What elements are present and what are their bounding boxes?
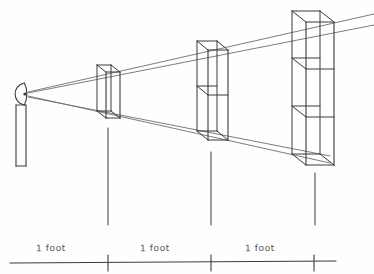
panels-group [97, 11, 334, 165]
ruler-segment-label-2: 1 foot [140, 243, 170, 253]
panel-far-depth-top-right [320, 11, 334, 22]
panel-middle-depth-top-left [197, 41, 208, 50]
panel-middle [197, 41, 228, 140]
observer-group [15, 83, 27, 166]
upper-sight-line-outer [28, 14, 374, 92]
eye-pupil-icon [23, 92, 26, 95]
panel-far-depth-top-left [292, 11, 306, 22]
ruler-segment-label-1: 1 foot [36, 243, 66, 253]
ruler-group [10, 255, 336, 271]
ruler-baseline [10, 261, 336, 263]
panel-near-depth-top-left [97, 65, 106, 72]
panel-near-depth-top-right [111, 65, 120, 72]
panel-far-division-1-connector [292, 58, 306, 69]
panel-far-division-2-connector [292, 106, 306, 117]
upper-sight-line-inner [28, 25, 374, 93]
panel-near [97, 65, 120, 118]
perspective-drawing-canvas [0, 0, 374, 274]
panel-far-depth-bottom-left [292, 154, 306, 165]
perspective-diagram-page: 1 foot 1 foot 1 foot [0, 0, 374, 274]
panel-middle-division-1-connector [197, 86, 208, 95]
drop-lines-group [108, 128, 315, 225]
ruler-segment-label-3: 1 foot [245, 243, 275, 253]
lower-sight-line-inner [28, 97, 330, 156]
sight-lines-group [28, 14, 374, 163]
